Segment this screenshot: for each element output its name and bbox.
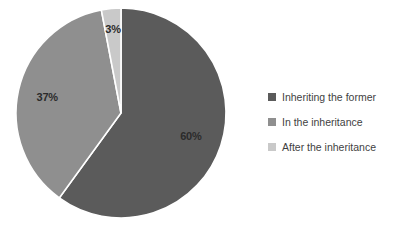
- slice-label-3: 3%: [105, 23, 121, 35]
- legend-item-after-the-inheritance[interactable]: After the inheritance: [268, 134, 396, 159]
- legend-swatch-icon: [268, 93, 276, 101]
- legend-item-in-the-inheritance[interactable]: In the inheritance: [268, 109, 396, 134]
- pie-svg: 60% 37% 3%: [0, 0, 250, 231]
- legend-item-inheriting-the-former[interactable]: Inheriting the former: [268, 84, 396, 109]
- legend-swatch-icon: [268, 118, 276, 126]
- slice-label-37: 37%: [36, 91, 58, 103]
- pie-chart: 60% 37% 3% Inheriting the former In the …: [0, 0, 398, 231]
- legend-item-label: In the inheritance: [282, 116, 363, 128]
- legend-item-label: Inheriting the former: [282, 91, 376, 103]
- pie-plot-area: 60% 37% 3%: [0, 0, 250, 231]
- pie-slices: [16, 8, 226, 218]
- legend-swatch-icon: [268, 143, 276, 151]
- legend-item-label: After the inheritance: [282, 141, 376, 153]
- slice-label-60: 60%: [180, 130, 202, 142]
- chart-legend: Inheriting the former In the inheritance…: [268, 84, 396, 159]
